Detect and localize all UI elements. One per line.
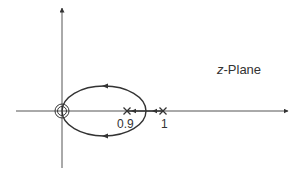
z-plane-diagram: 0.9 1 z-Plane	[0, 0, 302, 176]
locus-arrow-top-icon	[102, 84, 108, 89]
locus-arrow-bottom-icon	[102, 134, 108, 139]
plane-label: z-Plane	[216, 62, 261, 77]
segment-arrow-right-icon	[152, 109, 157, 113]
pole-label-0.9: 0.9	[117, 117, 134, 131]
pole-label-1: 1	[161, 117, 168, 131]
plane-label-suffix: -Plane	[224, 62, 262, 77]
segment-arrow-left-icon	[131, 109, 136, 113]
